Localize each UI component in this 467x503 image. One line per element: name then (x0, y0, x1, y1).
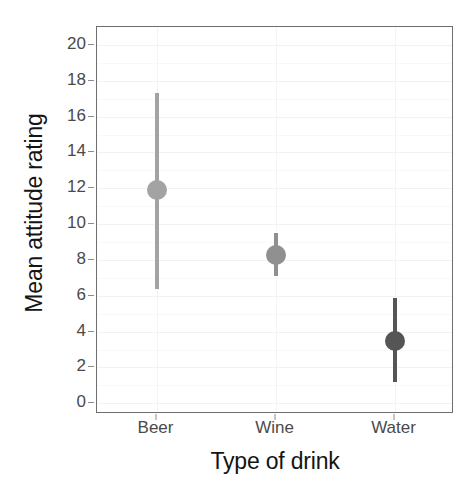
y-axis-title: Mean attitude rating (14, 3, 54, 423)
gridline-horizontal-minor (97, 99, 452, 100)
y-axis-tick-mark (88, 187, 94, 188)
gridline-horizontal (97, 403, 452, 404)
gridline-horizontal-minor (97, 206, 452, 207)
data-point (147, 180, 167, 200)
y-axis-tick-label: 4 (52, 321, 86, 341)
plot-panel (96, 26, 453, 413)
y-axis-tick-label: 14 (52, 141, 86, 161)
x-axis-tick-label: Wine (255, 418, 294, 438)
y-axis-tick-mark (88, 151, 94, 152)
gridline-horizontal (97, 224, 452, 225)
y-axis-tick-label: 6 (52, 285, 86, 305)
y-axis-tick-mark (88, 44, 94, 45)
gridline-horizontal (97, 367, 452, 368)
gridline-horizontal-minor (97, 350, 452, 351)
y-axis-tick-label: 10 (52, 213, 86, 233)
gridline-horizontal-minor (97, 278, 452, 279)
x-axis-tick-label: Water (371, 418, 416, 438)
x-axis-tick-label: Beer (138, 418, 174, 438)
y-axis-ticks: 02468101214161820 (52, 0, 86, 503)
data-point (385, 331, 405, 351)
y-axis-tick-mark (88, 366, 94, 367)
y-axis-tick-mark (88, 116, 94, 117)
y-axis-tick-mark (88, 402, 94, 403)
gridline-horizontal-minor (97, 385, 452, 386)
y-axis-tick-label: 16 (52, 106, 86, 126)
x-axis-tick-mark (393, 414, 394, 420)
gridline-horizontal (97, 81, 452, 82)
gridline-horizontal-minor (97, 170, 452, 171)
y-axis-tick-mark (88, 331, 94, 332)
y-axis-tick-mark (88, 80, 94, 81)
y-axis-tick-label: 0 (52, 392, 86, 412)
gridline-horizontal (97, 45, 452, 46)
gridline-horizontal (97, 296, 452, 297)
error-bar-chart: Mean attitude rating Type of drink 02468… (0, 0, 467, 503)
x-axis-tick-mark (274, 414, 275, 420)
y-axis-tick-label: 12 (52, 177, 86, 197)
x-axis-tick-mark (155, 414, 156, 420)
y-axis-tick-label: 18 (52, 70, 86, 90)
gridline-horizontal-minor (97, 63, 452, 64)
gridline-horizontal (97, 117, 452, 118)
y-axis-tick-label: 8 (52, 249, 86, 269)
gridline-horizontal-minor (97, 135, 452, 136)
y-axis-tick-mark (88, 259, 94, 260)
y-axis-tick-label: 20 (52, 34, 86, 54)
y-axis-tick-mark (88, 295, 94, 296)
y-axis-tick-label: 2 (52, 356, 86, 376)
gridline-horizontal-minor (97, 314, 452, 315)
gridline-vertical (276, 27, 277, 412)
y-axis-tick-mark (88, 223, 94, 224)
data-point (266, 245, 286, 265)
gridline-horizontal (97, 152, 452, 153)
x-axis-title: Type of drink (96, 448, 454, 475)
